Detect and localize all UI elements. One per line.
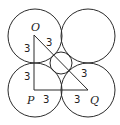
label-OP-upper: 3 <box>24 43 30 54</box>
label-OQ-lower: 3 <box>81 68 87 79</box>
label-point-Q: Q <box>90 94 99 107</box>
label-point-O: O <box>31 21 40 34</box>
label-PQ-left: 3 <box>43 94 49 105</box>
label-OQ-upper: 3 <box>46 37 52 48</box>
label-point-P: P <box>26 94 35 107</box>
geometry-diagram: O P Q 3 3 3 3 3 3 <box>0 0 120 125</box>
label-PQ-right: 3 <box>74 94 80 105</box>
label-OP-lower: 3 <box>24 71 30 82</box>
